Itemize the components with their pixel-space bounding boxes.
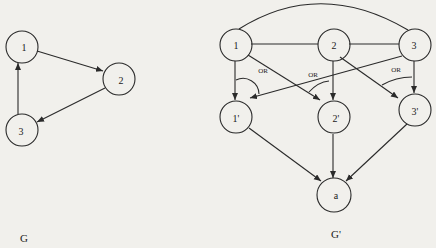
- node-label: 3: [19, 126, 24, 137]
- graph-g-caption: G: [20, 232, 28, 244]
- edge-g-1-2: [37, 51, 103, 71]
- node-gp-a: a: [317, 178, 351, 212]
- node-gp-3p: 3': [399, 94, 431, 126]
- node-label: 1: [22, 42, 27, 53]
- graph-g-prime: OR OR OR 1 2 3 1': [220, 4, 431, 240]
- node-label: a: [334, 190, 339, 201]
- or-label-1p: OR: [258, 67, 268, 75]
- edge-gp-1-3-arc: [239, 4, 408, 30]
- or-label-3p: OR: [391, 66, 401, 74]
- node-gp-2: 2: [318, 29, 350, 61]
- edge-gp-3p-a: [346, 124, 407, 181]
- node-g-2: 2: [103, 63, 135, 95]
- node-label: 1: [234, 40, 239, 51]
- node-label: 2: [332, 40, 337, 51]
- or-arc-3p: [382, 77, 412, 85]
- edge-gp-3-1p: [250, 56, 402, 98]
- or-arc-2p: [309, 81, 329, 92]
- edge-gp-1p-a: [249, 128, 321, 181]
- node-label: 3': [412, 106, 419, 117]
- node-gp-2p: 2': [318, 101, 350, 133]
- or-label-2p: OR: [308, 71, 318, 79]
- node-gp-1: 1: [220, 29, 252, 61]
- edge-g-2-3: [37, 88, 105, 122]
- node-g-3: 3: [6, 114, 38, 146]
- node-label: 2: [119, 75, 124, 86]
- node-label: 1': [233, 113, 240, 124]
- node-label: 3: [412, 40, 417, 51]
- node-gp-1p: 1': [220, 101, 252, 133]
- graph-g: 1 2 3 G: [6, 31, 135, 244]
- node-g-1: 1: [6, 31, 38, 63]
- edge-gp-2-3p: [340, 57, 398, 98]
- node-gp-3: 3: [399, 29, 431, 61]
- node-label: 2': [333, 113, 340, 124]
- graph-g-prime-caption: G': [331, 228, 341, 240]
- or-arc-1p: [236, 78, 259, 94]
- diagram-canvas: 1 2 3 G OR OR OR: [0, 0, 436, 248]
